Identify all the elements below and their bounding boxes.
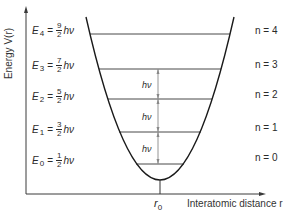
fraction-denominator: 2 bbox=[57, 66, 61, 74]
spacing-label-hv: hν bbox=[142, 112, 152, 122]
arrow-up-icon bbox=[157, 69, 160, 74]
energy-formula-3: E3 = 72 hν bbox=[32, 57, 74, 74]
fraction: 92 bbox=[56, 22, 62, 39]
energy-unit: hν bbox=[63, 25, 74, 36]
x-axis-label: Interatomic distance r bbox=[187, 198, 283, 209]
quantum-number-label-0: n = 0 bbox=[255, 152, 278, 163]
energy-subscript: 3 bbox=[40, 64, 44, 73]
fraction: 32 bbox=[56, 121, 62, 138]
energy-subscript: 2 bbox=[40, 95, 44, 104]
y-axis-label: Energy V(r) bbox=[3, 24, 14, 84]
r0-subscript: 0 bbox=[158, 203, 162, 212]
equals-sign: = bbox=[47, 60, 53, 71]
energy-symbol: E bbox=[32, 91, 39, 102]
energy-formula-2: E2 = 52 hν bbox=[32, 88, 74, 105]
energy-unit: hν bbox=[63, 124, 74, 135]
fraction-denominator: 2 bbox=[57, 97, 61, 105]
arrow-up-icon bbox=[157, 99, 160, 104]
energy-symbol: E bbox=[32, 155, 39, 166]
energy-symbol: E bbox=[32, 60, 39, 71]
equals-sign: = bbox=[47, 124, 53, 135]
fraction: 72 bbox=[56, 57, 62, 74]
quantum-number-label-4: n = 4 bbox=[255, 25, 278, 36]
energy-subscript: 0 bbox=[40, 159, 44, 168]
arrow-down-icon bbox=[157, 159, 160, 164]
fraction: 12 bbox=[56, 152, 62, 169]
equals-sign: = bbox=[47, 91, 53, 102]
arrow-down-icon bbox=[157, 127, 160, 132]
energy-unit: hν bbox=[63, 60, 74, 71]
arrow-up-icon bbox=[157, 132, 160, 137]
fraction-denominator: 2 bbox=[57, 31, 61, 39]
energy-formula-0: E0 = 12 hν bbox=[32, 152, 74, 169]
fraction: 52 bbox=[56, 88, 62, 105]
quantum-number-label-3: n = 3 bbox=[255, 59, 278, 70]
y-axis-arrow-icon bbox=[24, 6, 28, 13]
energy-symbol: E bbox=[32, 25, 39, 36]
energy-formula-1: E1 = 32 hν bbox=[32, 121, 74, 138]
spacing-label-hv: hν bbox=[142, 144, 152, 154]
spacing-label-hv: hν bbox=[142, 80, 152, 90]
energy-unit: hν bbox=[63, 91, 74, 102]
arrow-down-icon bbox=[157, 94, 160, 99]
fraction-denominator: 2 bbox=[57, 161, 61, 169]
energy-subscript: 1 bbox=[40, 128, 44, 137]
quantum-number-label-1: n = 1 bbox=[255, 122, 278, 133]
quantum-number-label-2: n = 2 bbox=[255, 89, 278, 100]
equals-sign: = bbox=[47, 155, 53, 166]
energy-subscript: 4 bbox=[40, 29, 44, 38]
energy-unit: hν bbox=[63, 155, 74, 166]
energy-formula-4: E4 = 92 hν bbox=[32, 22, 74, 39]
fraction-denominator: 2 bbox=[57, 130, 61, 138]
equals-sign: = bbox=[47, 25, 53, 36]
potential-curve bbox=[86, 17, 234, 180]
energy-symbol: E bbox=[32, 124, 39, 135]
x-axis-arrow-icon bbox=[259, 192, 266, 196]
equilibrium-distance-label: r0 bbox=[154, 197, 162, 209]
